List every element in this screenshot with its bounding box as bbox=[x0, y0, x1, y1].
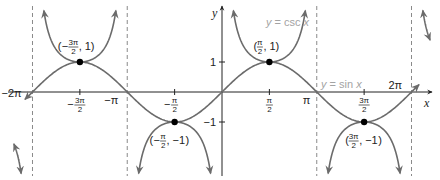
tick-numerator: 3π bbox=[359, 96, 369, 105]
asymptote-tick-label: −π bbox=[104, 94, 118, 106]
point-label-part: −1 bbox=[173, 134, 186, 146]
y-axis-label: y bbox=[211, 6, 218, 20]
csc-branch bbox=[14, 144, 21, 174]
point-label-part: , bbox=[167, 134, 170, 146]
point-label-numerator: π bbox=[160, 132, 166, 141]
key-point-label: (−3π2, 1) bbox=[58, 38, 95, 56]
point-label-part: − bbox=[154, 134, 160, 146]
point-label-part: ) bbox=[275, 40, 279, 52]
tick-sign: − bbox=[164, 98, 170, 110]
x-tick-label: π2 bbox=[266, 96, 273, 114]
point-label-part: , bbox=[79, 40, 82, 52]
point-label-part: , bbox=[359, 134, 362, 146]
tick-numerator: π bbox=[267, 96, 273, 105]
point-label-part: ) bbox=[186, 134, 190, 146]
sin-curve-label: y = sin x bbox=[320, 78, 362, 90]
x-tick-label: −π2 bbox=[164, 96, 178, 114]
point-label-denominator: 2 bbox=[351, 141, 356, 150]
x-tick-label: 3π2 bbox=[359, 96, 370, 114]
tick-numerator: 3π bbox=[75, 96, 85, 105]
csc-branch bbox=[328, 122, 400, 173]
y-tick-label: −1 bbox=[203, 116, 216, 128]
point-label-part: ) bbox=[378, 134, 382, 146]
key-point bbox=[361, 119, 367, 125]
x-tick-label: −3π2 bbox=[67, 96, 85, 114]
sin-csc-chart: x y −2π−ππ2π−3π2−π2π23π21−1 (−3π2, 1)(−π… bbox=[0, 0, 440, 180]
key-point-label: (−π2, −1) bbox=[150, 132, 190, 150]
key-point-label: (π2, 1) bbox=[253, 38, 279, 56]
csc-branch bbox=[423, 10, 430, 40]
tick-denominator: 2 bbox=[267, 105, 272, 114]
key-point-label: (3π2, −1) bbox=[345, 132, 382, 150]
point-label-part: − bbox=[62, 40, 68, 52]
tick-sign: − bbox=[67, 98, 73, 110]
point-label-numerator: π bbox=[257, 38, 263, 47]
key-point bbox=[171, 119, 177, 125]
tick-denominator: 2 bbox=[78, 105, 83, 114]
point-label-part: −1 bbox=[365, 134, 378, 146]
point-label-numerator: 3π bbox=[349, 132, 359, 141]
point-label-part: ) bbox=[91, 40, 95, 52]
point-label-numerator: 3π bbox=[68, 38, 78, 47]
x-axis-label: x bbox=[423, 96, 430, 110]
csc-curve-label: y = csc x bbox=[265, 16, 310, 28]
annotation-layer: y = csc x y = sin x bbox=[265, 16, 362, 90]
key-point bbox=[266, 59, 272, 65]
tick-denominator: 2 bbox=[172, 105, 177, 114]
point-label-denominator: 2 bbox=[71, 47, 76, 56]
tick-numerator: π bbox=[172, 96, 178, 105]
point-label-denominator: 2 bbox=[161, 141, 166, 150]
point-label-part: , bbox=[263, 40, 266, 52]
asymptote-tick-label: π bbox=[303, 94, 311, 106]
point-label-denominator: 2 bbox=[258, 47, 263, 56]
key-point bbox=[77, 59, 83, 65]
asymptote-tick-label: 2π bbox=[389, 79, 403, 91]
tick-denominator: 2 bbox=[362, 105, 367, 114]
csc-branch bbox=[44, 11, 116, 62]
y-tick-label: 1 bbox=[210, 56, 216, 68]
asymptote-tick-label: −2π bbox=[1, 87, 22, 99]
csc-branch bbox=[139, 122, 211, 173]
axis-layer: x y bbox=[8, 6, 432, 176]
